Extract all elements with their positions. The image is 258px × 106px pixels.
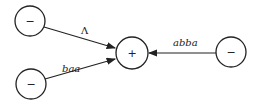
edge-label-lambda: Λ xyxy=(80,25,89,36)
node-n1-symbol: − xyxy=(25,15,34,28)
node-n3-symbol: − xyxy=(226,46,235,59)
edge-label-abba: abba xyxy=(173,37,198,48)
node-n2: − xyxy=(16,69,46,99)
node-n1: − xyxy=(15,6,45,36)
edge-n1-to-center xyxy=(44,27,115,48)
node-center-symbol: + xyxy=(127,47,136,60)
node-center: + xyxy=(116,37,148,69)
node-n3: − xyxy=(216,37,246,67)
edge-label-baa: baa xyxy=(62,63,80,74)
diagram-canvas: Λ baa abba − − + − xyxy=(0,0,258,106)
node-n2-symbol: − xyxy=(26,78,35,91)
